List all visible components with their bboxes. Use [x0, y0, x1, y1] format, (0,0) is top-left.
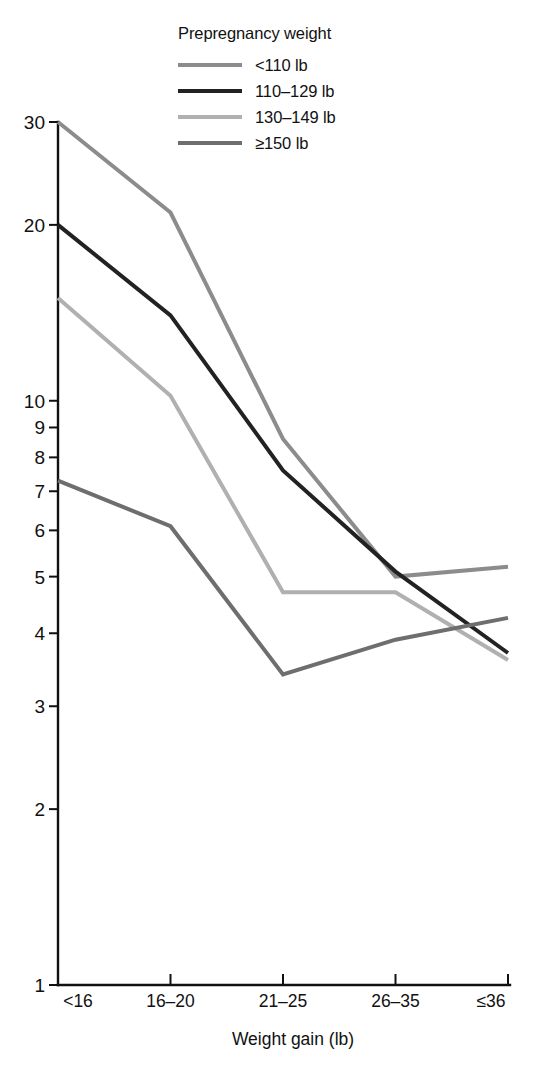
x-tick-label: 26–35	[371, 991, 420, 1011]
y-tick-label: 5	[34, 567, 45, 588]
y-tick-label: 10	[24, 391, 45, 412]
line-chart-plot: 123456789102030 <1616–2021–2526–35≤36 We…	[0, 0, 543, 1066]
series-line-3	[58, 481, 508, 675]
data-series-group	[58, 122, 508, 675]
y-tick-label: 2	[34, 799, 45, 820]
y-tick-label: 8	[34, 447, 45, 468]
figure-container: Prepregnancy weight <110 lb 110–129 lb 1…	[0, 0, 543, 1066]
x-tick-label: <16	[63, 991, 93, 1011]
x-tick-label: 16–20	[146, 991, 195, 1011]
y-tick-label: 30	[24, 112, 45, 133]
y-tick-label: 6	[34, 520, 45, 541]
y-tick-label: 4	[34, 623, 45, 644]
y-tick-label: 20	[24, 215, 45, 236]
y-tick-label: 7	[34, 481, 45, 502]
y-tick-label: 3	[34, 696, 45, 717]
x-tick-label: ≤36	[476, 991, 505, 1011]
x-tick-label: 21–25	[259, 991, 308, 1011]
y-tick-label: 9	[34, 417, 45, 438]
x-axis-title: Weight gain (lb)	[232, 1029, 354, 1049]
y-tick-label: 1	[34, 975, 45, 996]
y-axis-ticks: 123456789102030	[24, 112, 58, 996]
x-axis-ticks: <1616–2021–2526–35≤36	[58, 974, 508, 1011]
